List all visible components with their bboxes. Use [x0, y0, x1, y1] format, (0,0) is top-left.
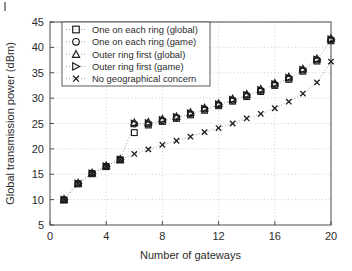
legend-label-0: One on each ring (global) — [92, 24, 198, 35]
y-tick-label: 5 — [38, 219, 44, 231]
legend-label-3: Outer ring first (game) — [92, 61, 184, 72]
x-tick-label: 4 — [103, 230, 109, 242]
y-tick-label: 25 — [32, 118, 44, 130]
y-axis-label: Global transmission power (dBm) — [4, 42, 16, 205]
x-tick-label: 12 — [212, 230, 224, 242]
y-tick-label: 35 — [32, 67, 44, 79]
x-axis-label: Number of gateways — [140, 249, 241, 261]
scan-artifact — [4, 2, 6, 11]
y-tick-label: 15 — [32, 168, 44, 180]
y-tick-label: 45 — [32, 16, 44, 28]
x-tick-label: 20 — [325, 230, 337, 242]
figure-container: 51015202530354045048121620Number of gate… — [0, 0, 352, 271]
legend-label-4: No geographical concern — [92, 73, 196, 84]
legend-label-1: One on each ring (game) — [92, 36, 196, 47]
x-tick-label: 8 — [159, 230, 165, 242]
y-tick-label: 40 — [32, 41, 44, 53]
y-tick-label: 30 — [32, 92, 44, 104]
legend-label-2: Outer ring first (global) — [92, 49, 185, 60]
chart-canvas: 51015202530354045048121620Number of gate… — [0, 0, 352, 271]
data-point-square — [131, 130, 137, 136]
x-tick-label: 16 — [269, 230, 281, 242]
y-tick-label: 10 — [32, 194, 44, 206]
x-tick-label: 0 — [47, 230, 53, 242]
y-tick-label: 20 — [32, 143, 44, 155]
